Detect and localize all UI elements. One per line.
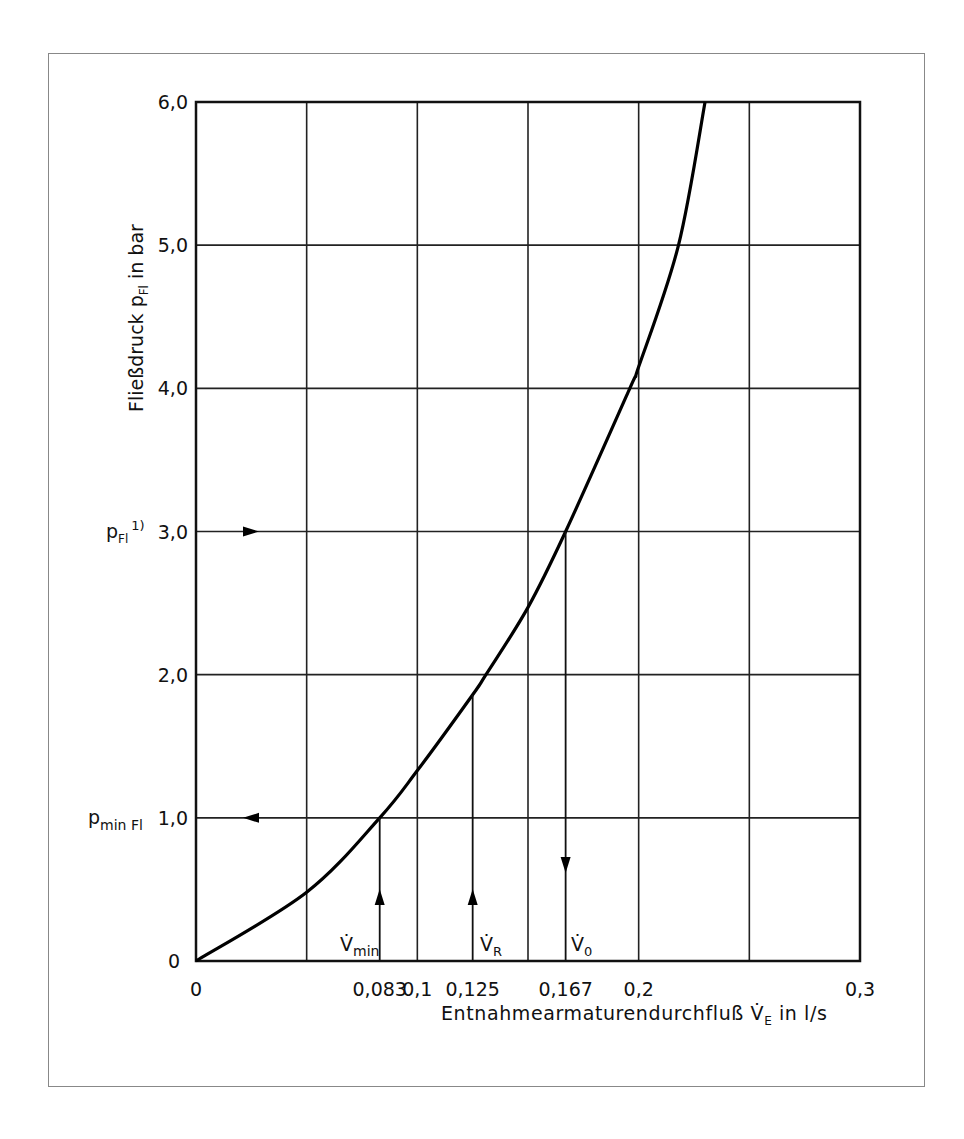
- grid-lines: [196, 102, 860, 961]
- pressure-flow-chart: 01,02,03,04,05,06,0 00,0830,10,1250,1670…: [0, 0, 964, 1139]
- x-tick-label: 0,1: [402, 978, 432, 1000]
- x-tick-label: 0: [190, 978, 202, 1000]
- y-tick-label: 5,0: [158, 234, 188, 256]
- y-tick-label: 3,0: [158, 521, 188, 543]
- arrow-left-icon: [243, 813, 259, 823]
- x-axis-title: Entnahmearmaturendurchfluß V̇E in l/s: [441, 1002, 828, 1028]
- pfl-marker-label: pFl1): [106, 518, 145, 546]
- y-tick-label: 6,0: [158, 91, 188, 113]
- y-tick-label: 1,0: [158, 807, 188, 829]
- vr-marker-label: V̇R: [480, 933, 502, 959]
- x-tick-label: 0,2: [624, 978, 654, 1000]
- x-axis-tick-labels: 00,0830,10,1250,1670,20,3: [190, 978, 875, 1000]
- vmin-marker-label: V̇min: [340, 933, 379, 959]
- x-tick-label: 0,3: [845, 978, 875, 1000]
- y-tick-label: 0: [168, 950, 180, 972]
- y-axis-tick-labels: 01,02,03,04,05,06,0: [158, 91, 188, 972]
- arrow-down-icon: [561, 857, 571, 873]
- arrow-up-icon: [468, 889, 478, 905]
- y-tick-label: 2,0: [158, 664, 188, 686]
- x-tick-label: 0,167: [538, 978, 592, 1000]
- x-tick-label: 0,083: [353, 978, 407, 1000]
- y-tick-label: 4,0: [158, 377, 188, 399]
- arrow-up-icon: [375, 889, 385, 905]
- y-axis-title: Fließdruck pFl in bar: [125, 224, 151, 412]
- x-tick-label: 0,125: [445, 978, 499, 1000]
- pmin-marker-label: pmin Fl: [88, 806, 143, 833]
- arrow-right-icon: [243, 527, 259, 537]
- v0-marker-label: V̇0: [571, 933, 592, 959]
- guide-lines: [243, 527, 571, 962]
